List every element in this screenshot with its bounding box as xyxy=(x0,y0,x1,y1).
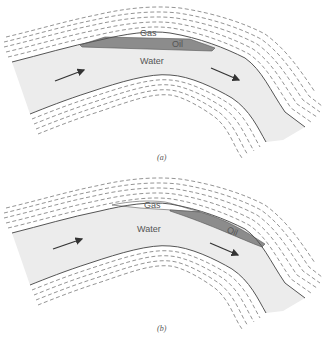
panel-a: Gas Oil Water (a) xyxy=(4,7,322,162)
label-gas: Gas xyxy=(140,28,157,38)
hydrodynamic-trap-diagram: Gas Oil Water (a) Gas Water Oil xyxy=(0,0,325,342)
caption-a: (a) xyxy=(157,153,167,162)
panel-b: Gas Water Oil (b) xyxy=(4,178,322,333)
label-oil: Oil xyxy=(172,39,183,49)
caption-b: (b) xyxy=(157,324,167,333)
label-water: Water xyxy=(137,224,161,234)
label-gas: Gas xyxy=(144,200,161,210)
label-water: Water xyxy=(140,56,164,66)
water-layer xyxy=(12,203,305,313)
